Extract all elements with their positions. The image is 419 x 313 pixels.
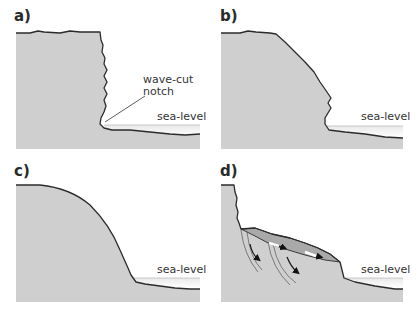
panel-a-sea-level-label: sea-level <box>157 111 206 122</box>
annotation-line-2: notch <box>143 86 193 98</box>
panel-a-notch-pointer <box>105 96 145 122</box>
cliff-erosion-diagram: a) b) c) d) sea-level sea-level sea-leve… <box>0 0 419 313</box>
panel-d <box>221 185 403 302</box>
panel-d-sea-level-label: sea-level <box>361 264 410 275</box>
panel-b-label: b) <box>220 9 238 24</box>
diagram-graphics <box>0 0 419 313</box>
panel-b-sea-level-label: sea-level <box>361 111 410 122</box>
panel-d-label: d) <box>220 164 238 179</box>
panel-c-label: c) <box>14 164 30 179</box>
panel-c <box>16 185 200 302</box>
wave-cut-notch-annotation: wave-cut notch <box>143 74 193 98</box>
panel-c-sea-level-label: sea-level <box>157 264 206 275</box>
panel-a-label: a) <box>14 9 31 24</box>
panel-b <box>221 31 403 149</box>
